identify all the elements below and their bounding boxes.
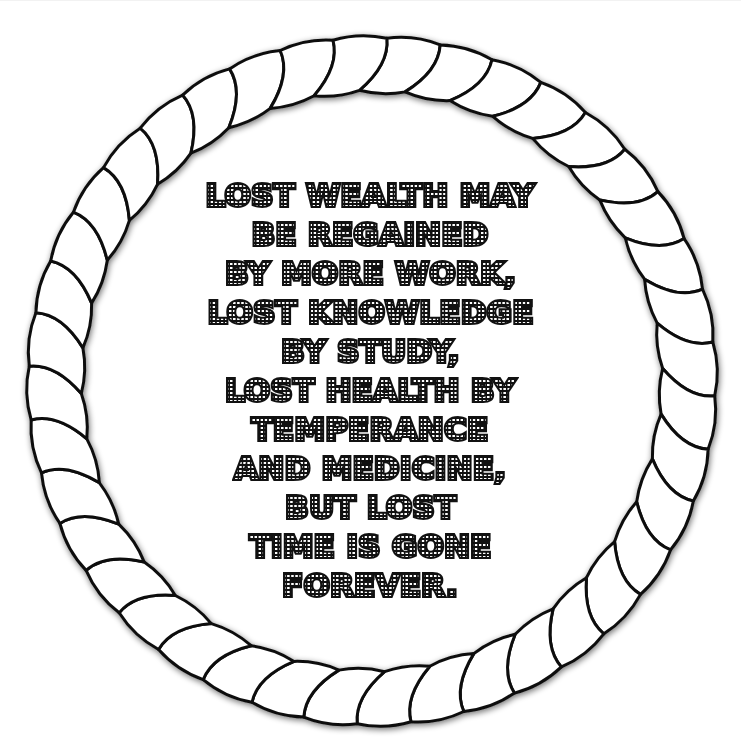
quote-line-2: BE REGAINEDBE REGAINED — [0, 215, 741, 254]
quote-line-1: LOST WEALTH MAYLOST WEALTH MAY — [0, 176, 741, 215]
quote-line-dots: FOREVER. — [283, 566, 459, 605]
quote-line-5: BY STUDY,BY STUDY, — [0, 332, 741, 371]
quote-line-4: LOST KNOWLEDGELOST KNOWLEDGE — [0, 293, 741, 332]
quote-line-dots: TIME IS GONE — [249, 527, 491, 566]
quote-line-dots: BY MORE WORK, — [225, 254, 516, 293]
quote-line-8: AND MEDICINE,AND MEDICINE, — [0, 449, 741, 488]
quote-line-dots: BE REGAINED — [252, 215, 489, 254]
quote-line-11: FOREVER.FOREVER. — [0, 566, 741, 605]
quote-line-dots: AND MEDICINE, — [234, 449, 506, 488]
quote-line-dots: LOST HEALTH BY — [225, 371, 516, 410]
quote-line-9: BUT LOSTBUT LOST — [0, 488, 741, 527]
quote-line-7: TEMPERANCETEMPERANCE — [0, 410, 741, 449]
quote-line-dots: LOST WEALTH MAY — [206, 176, 535, 215]
quote-line-dots: BY STUDY, — [281, 332, 460, 371]
quote-line-dots: LOST KNOWLEDGE — [207, 293, 533, 332]
quote-line-10: TIME IS GONETIME IS GONE — [0, 527, 741, 566]
quote-text-block: LOST WEALTH MAYLOST WEALTH MAY BE REGAIN… — [0, 176, 741, 605]
quote-line-6: LOST HEALTH BYLOST HEALTH BY — [0, 371, 741, 410]
quote-line-3: BY MORE WORK,BY MORE WORK, — [0, 254, 741, 293]
rope-segment — [460, 634, 515, 711]
quote-line-dots: BUT LOST — [285, 488, 456, 527]
rope-segment — [229, 51, 284, 128]
quote-line-dots: TEMPERANCE — [252, 410, 489, 449]
